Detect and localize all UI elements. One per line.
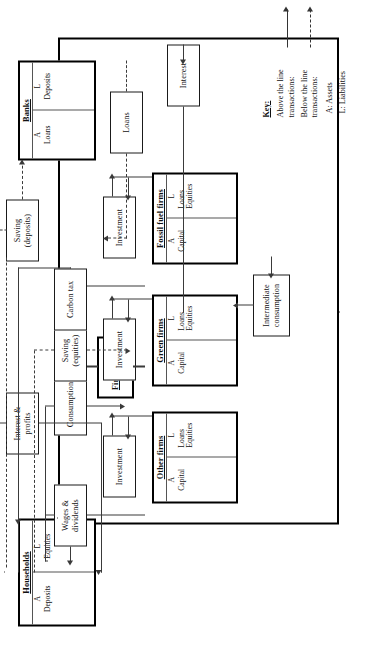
arrow-carbontax-to-households (15, 519, 21, 524)
connector-firmsectors-up (87, 365, 98, 367)
key-below-label: Below the line transactions: (300, 47, 321, 117)
green-firms-liabilities-header: L (168, 315, 177, 320)
arrow-loans-into-firms (103, 235, 108, 241)
connector-hh-branch-stub (45, 560, 48, 561)
other-firms-assets-header: A (168, 477, 177, 482)
connector-wages-down (87, 514, 145, 515)
connector-carbontax-to-firms (87, 285, 145, 286)
households-assets-items: Deposits (44, 585, 53, 612)
loans-label: Loans (122, 112, 131, 133)
investment-fossil-label: Investment (115, 208, 124, 245)
key-title: Key: (262, 5, 272, 117)
saving-deposits-label: Saving (deposits) (13, 213, 32, 246)
connector-interest-to-banks (183, 44, 184, 60)
t-account-fossil-fuel-firms: Fossil fuel firms A Capital L Loans Equi… (152, 172, 238, 264)
key-row-below-the-line: Below the line transactions: (300, 5, 321, 117)
t-account-green-firms: Green firms A Capital L Loans Equities (152, 294, 238, 386)
green-firms-title: Green firms (154, 296, 166, 384)
connector-wages-to-hh (70, 546, 71, 561)
fossil-fuel-firms-assets-column: A Capital (167, 218, 236, 263)
banks-liabilities-items: Deposits (44, 72, 53, 99)
connector-inv-other-a (112, 416, 113, 435)
connector-savdep-to-banks (22, 160, 23, 199)
other-firms-assets-column: A Capital (167, 457, 236, 502)
investment-other-label: Investment (115, 447, 124, 484)
connector-loans-dash-v (108, 237, 127, 238)
arrow-fossil-firms-to-investment (125, 195, 131, 200)
connector-inv-other-b (128, 416, 129, 435)
wages-dividends-label: Wages & dividends (61, 499, 80, 532)
banks-liabilities-header: L (34, 83, 43, 88)
diagram-canvas: Households A Deposits L Equities Banks A… (0, 0, 376, 657)
interest-profits-label: Interest & profits (13, 406, 32, 440)
households-title: Households (20, 520, 32, 624)
households-liabilities-header: L (34, 543, 43, 548)
fossil-fuel-firms-liabilities-column: L Loans Equities (167, 174, 236, 218)
connector-carbontax-across (18, 267, 19, 572)
flow-consumption: Consumption (54, 373, 87, 435)
fossil-fuel-firms-title: Fossil fuel firms (154, 174, 166, 262)
flow-investment-fossil: Investment (103, 196, 136, 258)
other-firms-liabilities-header: L (168, 432, 177, 437)
connector-saving-equities-v (34, 349, 54, 350)
other-firms-title: Other firms (154, 413, 166, 501)
connector-consumption-down (87, 405, 121, 406)
key-legend: Key: Above the line transactions: Below … (262, 5, 350, 117)
green-firms-assets-header: A (168, 360, 177, 365)
key-assets-definition: A: Assets (325, 5, 335, 113)
green-firms-liabilities-items: Loans Equities (178, 305, 195, 330)
connector-inv-fossil-a (112, 177, 113, 196)
arrow-intermediate-to-other-firms (233, 302, 238, 308)
households-assets-column: A Deposits (33, 572, 94, 625)
connector-inv-green-b (128, 299, 129, 318)
green-firms-assets-column: A Capital (167, 340, 236, 385)
connector-hh-branch (45, 406, 46, 561)
banks-liabilities-column: L Deposits (33, 62, 94, 110)
arrow-saving-deposits-to-banks (19, 159, 25, 164)
flow-carbon-tax: Carbon tax (54, 268, 87, 330)
intermediate-consumption-label: Intermediate consumption (262, 283, 281, 326)
key-dashed-arrow-icon (305, 5, 315, 47)
connector-inv-fossil-b (128, 177, 129, 196)
arrow-other-firms-to-investment (125, 434, 131, 439)
connector-saving-equities-v2 (87, 349, 127, 350)
connector-inv-fossil-stub (112, 176, 152, 177)
flow-wages-dividends: Wages & dividends (54, 484, 87, 546)
green-firms-assets-items: Capital (178, 351, 187, 373)
interest-label: Interest (179, 62, 188, 87)
connector-loans-to-banks-dash (126, 60, 127, 91)
key-row-above-the-line: Above the line transactions: (276, 5, 297, 117)
flow-investment-other: Investment (103, 435, 136, 497)
arrow-green-firms-to-investment (125, 317, 131, 322)
fossil-fuel-firms-assets-header: A (168, 238, 177, 243)
arrow-fossil-to-intermediate (268, 273, 274, 278)
carbon-tax-label: Carbon tax (66, 280, 75, 317)
connector-banks-hh-long (57, 517, 58, 518)
connector-inv-green-stub (112, 298, 152, 299)
connector-saving-equities-h (34, 350, 35, 572)
green-firms-liabilities-column: L Loans Equities (167, 296, 236, 340)
key-solid-arrow-icon (282, 5, 292, 47)
connector-savdep-dash-h (4, 571, 5, 572)
flow-loans: Loans (110, 91, 143, 153)
banks-assets-header: A (34, 132, 43, 137)
key-liabilities-definition: L: Liabilities (338, 5, 348, 113)
fossil-fuel-firms-liabilities-items: Loans Equities (178, 183, 195, 208)
arrow-saving-equities-to-firms (126, 348, 131, 354)
flow-intermediate-consumption: Intermediate consumption (253, 274, 290, 336)
connector-interest-firms-up (339, 311, 340, 312)
connector-interm-to-other (238, 304, 254, 305)
connector-inv-other-stub1 (112, 415, 152, 416)
other-firms-liabilities-column: L Loans Equities (167, 413, 236, 457)
arrow-interest-to-banks (180, 59, 186, 64)
consumption-label: Consumption (66, 381, 75, 426)
connector-hh-to-consumption (45, 405, 55, 406)
arrow-wages-to-households (67, 560, 73, 565)
other-firms-liabilities-items: Loans Equities (178, 422, 195, 447)
connector-inv-green-a (112, 299, 113, 318)
banks-title: Banks (20, 62, 32, 158)
arrow-consumption-into-firms (120, 403, 125, 409)
banks-assets-items: Loans (44, 125, 53, 144)
banks-assets-column: A Loans (33, 110, 94, 159)
saving-equities-label: Saving (equities) (61, 334, 80, 366)
